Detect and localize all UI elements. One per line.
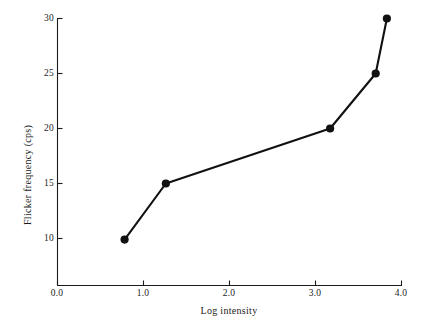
axes-group [57,18,402,286]
data-point [162,179,170,187]
x-tick-label-1: 1.0 [137,288,149,298]
data-line-series-0 [125,19,387,240]
data-point [372,69,380,77]
y-axis-ticks [58,19,63,239]
x-tick-label-3: 3.0 [309,288,321,298]
data-markers-series-0 [120,14,391,243]
y-tick-label-30: 30 [36,13,54,23]
x-axis-title: Log intensity [201,305,258,316]
x-tick-label-2: 2.0 [223,288,235,298]
x-axis-ticks [58,281,402,286]
y-tick-label-10: 10 [36,233,54,243]
y-tick-label-25: 25 [36,68,54,78]
chart-figure: 0.0 1.0 2.0 3.0 4.0 10 15 20 25 30 Log i… [0,0,425,330]
data-point [326,124,334,132]
x-tick-label-4: 4.0 [395,288,407,298]
y-tick-label-15: 15 [36,178,54,188]
data-point [120,236,128,244]
x-tick-label-0: 0.0 [51,288,63,298]
chart-plot-area [0,0,425,330]
y-tick-label-20: 20 [36,123,54,133]
y-axis-title: Flicker frequency (cps) [22,125,33,225]
data-point [383,14,391,22]
